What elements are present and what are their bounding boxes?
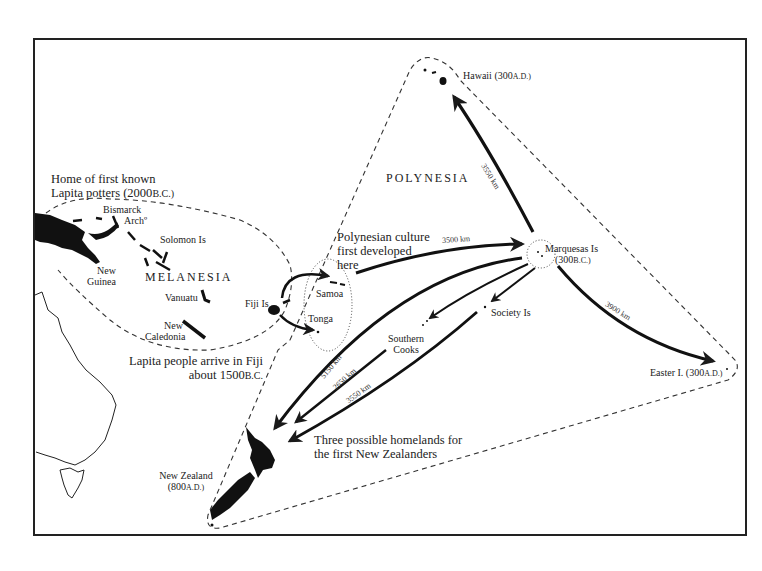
samoa-islands: [330, 282, 345, 285]
society-islands: [484, 306, 486, 308]
label-southern-cooks: Southern Cooks: [381, 333, 431, 355]
lapita-home-line1: Home of first known: [51, 172, 174, 186]
label-new-zealand: New Zealand (800A.D.): [156, 470, 216, 493]
label-marquesas: Marquesas Is (300B.C.): [545, 243, 598, 266]
marquesas-islands: [537, 251, 539, 253]
easter-island: [726, 368, 728, 370]
arrow-marquesas-hawaii: [454, 97, 533, 232]
tasmania-outline: [60, 468, 84, 498]
region-polynesia: POLYNESIA: [386, 171, 469, 186]
fiji-islands: [268, 305, 280, 315]
lapita-home-label: Home of first known Lapita potters (2000…: [51, 172, 174, 201]
new-caledonia-island: [183, 321, 205, 338]
label-hawaii: Hawaii (300A.D.): [463, 70, 531, 82]
label-samoa: Samoa: [316, 288, 343, 299]
lapita-home-line2: Lapita potters (2000B.C.): [51, 186, 174, 201]
vanuatu-islands: [202, 290, 210, 302]
label-new-caledonia: New Caledonia: [145, 320, 183, 342]
fiji-arrival-label: Lapita people arrive in Fiji about 1500B…: [115, 354, 263, 383]
region-melanesia: MELANESIA: [145, 270, 232, 285]
label-vanuatu: Vanuatu: [165, 292, 198, 303]
label-fiji: Fiji Is: [245, 298, 269, 309]
label-tonga: Tonga: [308, 313, 333, 324]
southern-cooks-islands: [422, 324, 424, 326]
new-zealand-south-island: [210, 472, 255, 520]
new-zealand-north-island: [246, 427, 275, 478]
label-bismarck: Bismarck Archº: [103, 204, 147, 226]
hawaii-islands: [424, 69, 427, 72]
arrow-marquesas-society: [492, 268, 535, 301]
new-guinea-landmass: [35, 213, 100, 264]
tonga-islands: [317, 331, 320, 334]
polynesian-culture-label: Polynesian culture first developed here: [337, 230, 430, 272]
samoa-tonga-dotted-circle: [304, 259, 352, 351]
label-society: Society Is: [491, 307, 531, 318]
label-easter: Easter I. (300A.D.): [650, 367, 722, 379]
label-new-guinea: New Guinea: [74, 265, 116, 287]
australia-coastline: [35, 292, 116, 465]
label-solomon: Solomon Is: [160, 234, 206, 245]
homelands-label: Three possible homelands for the first N…: [314, 433, 462, 461]
